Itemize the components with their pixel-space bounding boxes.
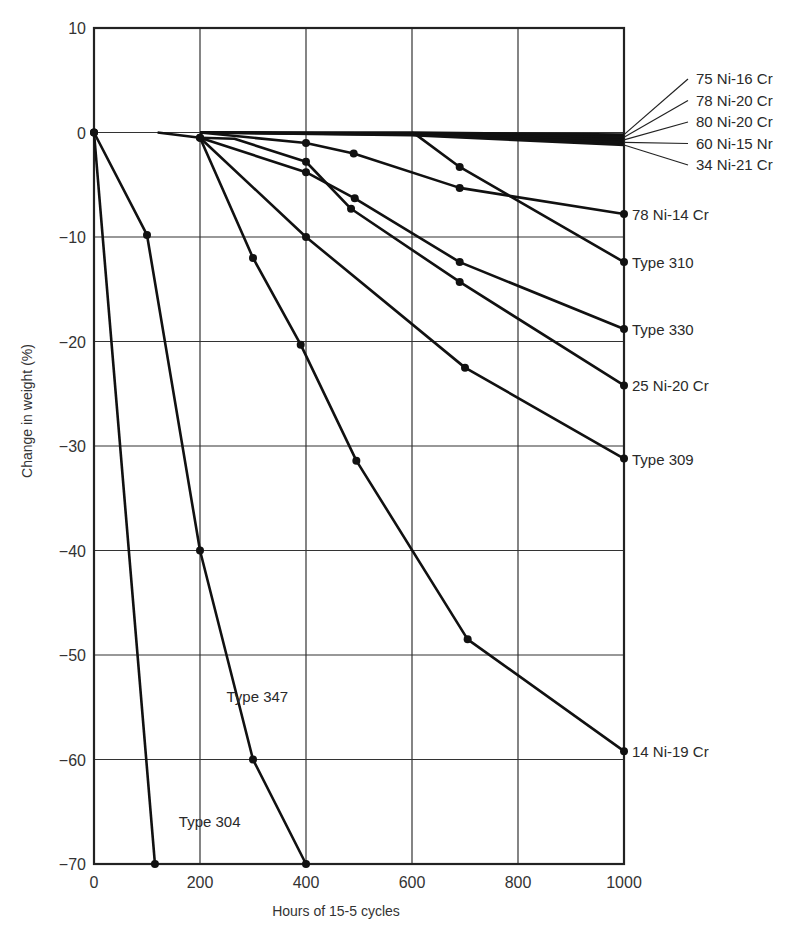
data-point-type-347 xyxy=(143,231,151,239)
series-label-type-309: Type 309 xyxy=(632,451,694,468)
data-point-type-347 xyxy=(249,756,257,764)
data-point-25-ni-20-cr xyxy=(302,158,310,166)
data-point-type-330 xyxy=(302,168,310,176)
series-label-60-ni-15-nr: 60 Ni-15 Nr xyxy=(696,135,773,152)
leader-line-60-ni-15-nr xyxy=(624,142,688,143)
data-point-14-ni-19-cr xyxy=(620,747,628,755)
x-tick-label: 400 xyxy=(293,874,320,891)
x-tick-label: 1000 xyxy=(606,874,642,891)
y-tick-label: −40 xyxy=(59,543,86,560)
leader-line-34-ni-21-cr xyxy=(624,145,688,165)
y-tick-label: −60 xyxy=(59,752,86,769)
series-label-25-ni-20-cr: 25 Ni-20 Cr xyxy=(632,377,709,394)
series-label-type-304: Type 304 xyxy=(179,813,241,830)
data-point-type-330 xyxy=(620,325,628,333)
series-label-75-ni-16-cr: 75 Ni-16 Cr xyxy=(696,70,773,87)
data-point-type-309 xyxy=(302,233,310,241)
data-point-78-ni-14-cr xyxy=(456,184,464,192)
grid xyxy=(94,28,624,864)
x-axis-ticks: 02004006008001000 xyxy=(90,874,642,891)
y-tick-label: 0 xyxy=(77,125,86,142)
data-point-type-330 xyxy=(456,258,464,266)
series-label-34-ni-21-cr: 34 Ni-21 Cr xyxy=(696,156,773,173)
y-tick-label: −20 xyxy=(59,334,86,351)
series-lines xyxy=(94,133,624,865)
y-axis-title: Change in weight (%) xyxy=(19,344,35,478)
y-tick-label: −30 xyxy=(59,438,86,455)
data-point-14-ni-19-cr xyxy=(464,635,472,643)
series-label-78-ni-14-cr: 78 Ni-14 Cr xyxy=(632,206,709,223)
data-point-78-ni-14-cr xyxy=(302,139,310,147)
y-axis-ticks: 100−10−20−30−40−50−60−70 xyxy=(59,20,86,873)
series-labels: 75 Ni-16 Cr78 Ni-20 Cr80 Ni-20 Cr60 Ni-1… xyxy=(179,70,773,830)
data-point-14-ni-19-cr xyxy=(352,457,360,465)
series-label-type-310: Type 310 xyxy=(632,254,694,271)
data-point-type-347 xyxy=(302,860,310,868)
series-markers xyxy=(90,129,628,869)
series-label-78-ni-20-cr: 78 Ni-20 Cr xyxy=(696,92,773,109)
data-point-14-ni-19-cr xyxy=(297,341,305,349)
data-point-type-309 xyxy=(620,455,628,463)
series-label-80-ni-20-cr: 80 Ni-20 Cr xyxy=(696,113,773,130)
data-point-25-ni-20-cr xyxy=(347,205,355,213)
x-tick-label: 200 xyxy=(187,874,214,891)
y-tick-label: −10 xyxy=(59,229,86,246)
x-tick-label: 0 xyxy=(90,874,99,891)
x-tick-label: 800 xyxy=(505,874,532,891)
y-tick-label: −50 xyxy=(59,647,86,664)
data-point-78-ni-14-cr xyxy=(620,210,628,218)
leader-line-80-ni-20-cr xyxy=(624,122,688,140)
y-tick-label: −70 xyxy=(59,856,86,873)
data-point-type-330 xyxy=(351,194,359,202)
series-line-type-304 xyxy=(94,133,155,865)
leader-line-75-ni-16-cr xyxy=(624,79,688,135)
data-point-type-347 xyxy=(196,547,204,555)
series-label-type-330: Type 330 xyxy=(632,321,694,338)
series-label-type-347: Type 347 xyxy=(227,688,289,705)
data-point-14-ni-19-cr xyxy=(249,254,257,262)
x-tick-label: 600 xyxy=(399,874,426,891)
data-point-type-304 xyxy=(90,129,98,137)
series-label-14-ni-19-cr: 14 Ni-19 Cr xyxy=(632,743,709,760)
data-point-25-ni-20-cr xyxy=(620,381,628,389)
data-point-type-309 xyxy=(196,134,204,142)
y-tick-label: 10 xyxy=(68,20,86,37)
data-point-type-310 xyxy=(620,258,628,266)
data-point-type-310 xyxy=(456,163,464,171)
data-point-25-ni-20-cr xyxy=(456,278,464,286)
data-point-78-ni-14-cr xyxy=(350,149,358,157)
x-axis-title: Hours of 15-5 cycles xyxy=(272,903,400,919)
data-point-type-309 xyxy=(461,364,469,372)
chart: 02004006008001000 100−10−20−30−40−50−60−… xyxy=(0,0,802,930)
data-point-type-304 xyxy=(151,860,159,868)
